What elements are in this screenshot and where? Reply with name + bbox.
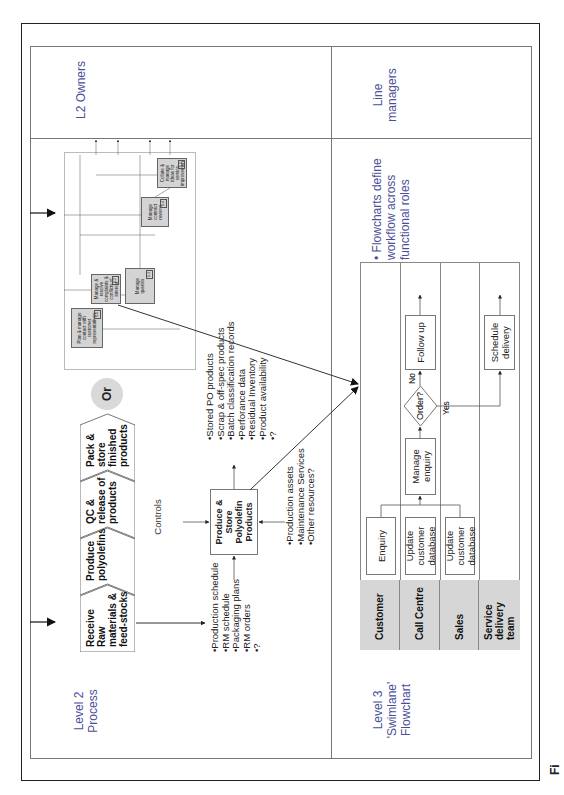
connector-lines [0, 0, 564, 795]
figure-caption-fragment: Fi [548, 764, 562, 775]
rotated-page: Level 2 Process L2 Owners Level 3 'Swiml… [0, 0, 564, 795]
